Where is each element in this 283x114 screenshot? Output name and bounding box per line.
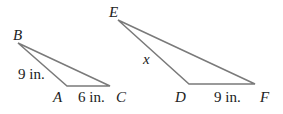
triangle-edf [118,20,255,84]
side-label-df: 9 in. [214,89,241,105]
vertex-label-a: A [52,89,63,105]
vertex-label-b: B [13,27,22,43]
side-label-ed: x [142,51,150,67]
vertex-label-d: D [174,89,186,105]
triangles-diagram: B 9 in. A 6 in. C E x D 9 in. F [0,0,283,114]
side-label-ba: 9 in. [18,66,45,82]
similar-triangles-figure: B 9 in. A 6 in. C E x D 9 in. F [0,0,283,114]
side-label-ac: 6 in. [78,89,105,105]
vertex-label-c: C [116,89,127,105]
vertex-label-f: F [259,89,270,105]
vertex-label-e: E [108,4,118,20]
